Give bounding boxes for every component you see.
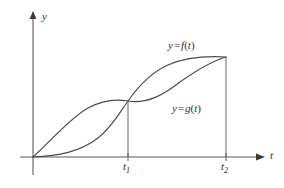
tick-label-t2: t2: [221, 161, 228, 175]
y-axis-arrow-icon: [30, 11, 37, 19]
figure-canvas: y t t1 t2 y=f(t) y=g(t): [0, 0, 284, 188]
curve-label-f-paren-close: ): [191, 39, 195, 51]
curve-label-g-equals: =: [177, 102, 185, 114]
y-axis-label: y: [42, 11, 47, 22]
figure-svg: [0, 0, 284, 188]
curve-label-g: y=g(t): [172, 103, 201, 114]
tick-label-t1-subscript: 1: [126, 166, 130, 175]
t-axis-label: t: [270, 150, 273, 161]
tick-label-t1: t1: [123, 161, 130, 175]
curve-label-f: y=f(t): [168, 40, 195, 51]
tick-label-t2-subscript: 2: [224, 166, 228, 175]
t-axis-arrow-icon: [256, 153, 265, 160]
curve-label-g-paren-close: ): [197, 102, 201, 114]
curve-label-f-equals: =: [173, 39, 181, 51]
